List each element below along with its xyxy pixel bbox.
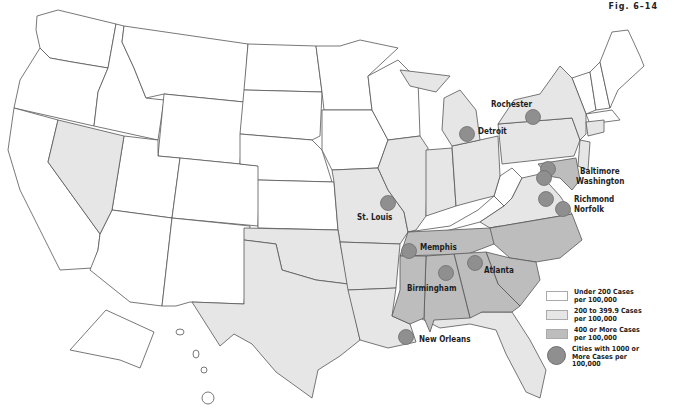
city-marker-rochester <box>526 110 541 125</box>
city-label-birmingham: Birmingham <box>407 283 456 293</box>
legend-label: 200 to 399.9 Cases per 100,000 <box>574 308 646 323</box>
city-marker-new-orleans <box>399 330 414 345</box>
city-marker-memphis <box>402 244 417 259</box>
city-label-washington: Washington <box>576 176 624 186</box>
legend-swatch-under-200 <box>546 291 568 301</box>
city-marker-st-louis <box>381 196 396 211</box>
city-marker-norfolk <box>556 202 571 217</box>
city-label-memphis: Memphis <box>420 242 457 252</box>
legend-swatch-400-plus <box>546 329 568 339</box>
legend-item-under-200: Under 200 Cases per 100,000 <box>546 289 674 304</box>
legend-label: Cities with 1000 or More Cases per 100,0… <box>572 346 644 369</box>
city-label-richmond: Richmond <box>574 194 614 204</box>
city-dot-icon <box>547 346 566 365</box>
legend-item-400-plus: 400 or More Cases per 100,000 <box>546 327 674 342</box>
city-marker-washington <box>537 171 552 186</box>
city-label-st-louis: St. Louis <box>357 212 392 222</box>
city-label-norfolk: Norfolk <box>574 204 604 214</box>
city-label-rochester: Rochester <box>491 99 532 109</box>
legend-label: Under 200 Cases per 100,000 <box>574 289 646 304</box>
city-label-new-orleans: New Orleans <box>419 334 471 344</box>
legend-swatch-200-to-399 <box>546 310 568 320</box>
legend-item-200-to-399: 200 to 399.9 Cases per 100,000 <box>546 308 674 323</box>
city-label-baltimore: Baltimore <box>580 166 620 176</box>
legend: Under 200 Cases per 100,000 200 to 399.9… <box>546 289 674 373</box>
city-marker-richmond <box>539 192 554 207</box>
city-marker-detroit <box>460 127 475 142</box>
legend-label: 400 or More Cases per 100,000 <box>574 327 646 342</box>
city-label-atlanta: Atlanta <box>484 265 514 275</box>
city-label-detroit: Detroit <box>478 126 507 136</box>
city-marker-birmingham <box>439 266 454 281</box>
city-marker-atlanta <box>468 256 483 271</box>
legend-item-city: Cities with 1000 or More Cases per 100,0… <box>546 346 674 369</box>
